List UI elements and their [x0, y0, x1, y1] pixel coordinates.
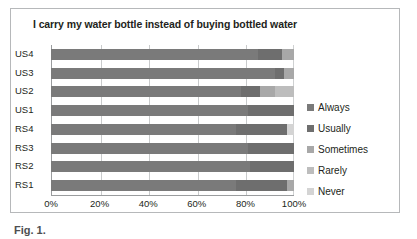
bar-row — [51, 161, 294, 172]
x-axis-tick-label: 0% — [44, 198, 58, 209]
bar-series-group — [51, 45, 294, 195]
bar-segment — [284, 68, 294, 79]
bar-segment — [258, 49, 282, 60]
legend-swatch-icon — [307, 125, 314, 132]
y-axis-tick-label: RS3 — [15, 142, 49, 153]
bar-segment — [248, 143, 294, 154]
y-axis-tick-label: RS2 — [15, 160, 49, 171]
legend-label: Sometimes — [318, 144, 368, 155]
x-axis-tick-label: 20% — [90, 198, 109, 209]
x-axis-tick-label: 100% — [282, 198, 306, 209]
chart-legend: AlwaysUsuallySometimesRarelyNever — [307, 97, 399, 202]
legend-swatch-icon — [307, 146, 314, 153]
bar-segment — [287, 124, 294, 135]
legend-item[interactable]: Usually — [307, 118, 399, 139]
bar-segment — [275, 86, 294, 97]
bar-segment — [275, 68, 285, 79]
x-axis-tick-label: 60% — [187, 198, 206, 209]
y-axis-tick-label: US2 — [15, 85, 49, 96]
y-axis-tick-label: US1 — [15, 104, 49, 115]
y-axis-tick-label: US4 — [15, 48, 49, 59]
x-axis-tick-label: 40% — [139, 198, 158, 209]
bar-segment — [250, 161, 294, 172]
y-axis-labels: US4US3US2US1RS4RS3RS2RS1 — [15, 45, 49, 195]
legend-label: Usually — [318, 123, 351, 134]
figure-caption-fragment: Fig. 1. — [14, 224, 46, 238]
plot-area-wrapper — [51, 45, 294, 195]
legend-swatch-icon — [307, 188, 314, 195]
y-axis-tick-label: RS4 — [15, 123, 49, 134]
bar-segment — [51, 49, 258, 60]
legend-item[interactable]: Rarely — [307, 160, 399, 181]
bar-segment — [51, 105, 248, 116]
bar-segment — [248, 105, 294, 116]
bar-segment — [260, 86, 275, 97]
bar-segment — [51, 143, 248, 154]
chart-title: I carry my water bottle instead of buyin… — [33, 18, 297, 30]
x-axis-tick-label: 80% — [236, 198, 255, 209]
legend-item[interactable]: Sometimes — [307, 139, 399, 160]
bar-segment — [236, 124, 287, 135]
bar-segment — [287, 180, 294, 191]
bar-segment — [51, 124, 236, 135]
bar-segment — [51, 180, 236, 191]
bar-row — [51, 105, 294, 116]
legend-swatch-icon — [307, 167, 314, 174]
x-axis-line — [51, 195, 294, 196]
y-axis-tick-label: RS1 — [15, 179, 49, 190]
legend-swatch-icon — [307, 104, 314, 111]
bar-row — [51, 124, 294, 135]
bar-row — [51, 143, 294, 154]
bar-segment — [282, 49, 294, 60]
bar-segment — [51, 86, 241, 97]
bar-segment — [51, 161, 250, 172]
legend-label: Rarely — [318, 165, 347, 176]
bar-row — [51, 180, 294, 191]
legend-item[interactable]: Always — [307, 97, 399, 118]
bar-segment — [51, 68, 275, 79]
legend-label: Always — [318, 102, 350, 113]
y-axis-tick-label: US3 — [15, 67, 49, 78]
legend-item[interactable]: Never — [307, 181, 399, 202]
bar-segment — [236, 180, 287, 191]
legend-label: Never — [318, 186, 345, 197]
bar-segment — [241, 86, 260, 97]
bar-row — [51, 49, 294, 60]
bar-row — [51, 86, 294, 97]
bar-row — [51, 68, 294, 79]
x-axis-labels: 0%20%40%60%80%100% — [51, 198, 294, 214]
chart-frame: I carry my water bottle instead of buyin… — [10, 8, 400, 213]
